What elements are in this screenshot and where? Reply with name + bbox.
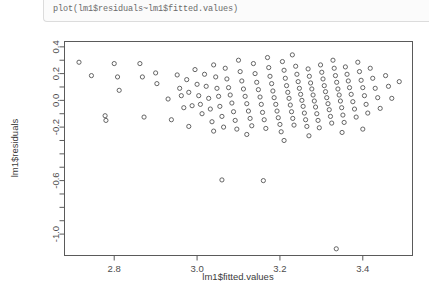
data-point: [117, 88, 121, 92]
data-point: [302, 111, 306, 115]
data-point: [255, 80, 259, 84]
data-point: [357, 69, 361, 73]
data-point: [259, 102, 263, 106]
x-tick-label: 2.8: [108, 263, 121, 274]
data-point: [246, 109, 250, 113]
data-point: [231, 110, 235, 114]
data-point: [274, 102, 278, 106]
data-point: [262, 118, 266, 122]
data-point: [318, 63, 322, 67]
data-point: [328, 114, 332, 118]
data-point: [142, 115, 146, 119]
x-tick-label: 3.4: [356, 263, 369, 274]
data-point: [347, 86, 351, 90]
data-point: [331, 58, 335, 62]
data-point: [115, 75, 119, 79]
data-point: [267, 65, 271, 69]
r-console-strip: plot(lm1$residuals~lm1$fitted.values): [0, 0, 429, 24]
data-point: [271, 89, 275, 93]
data-point: [279, 130, 283, 134]
data-point: [275, 109, 279, 113]
data-point: [204, 84, 208, 88]
data-point: [286, 90, 290, 94]
data-point: [235, 127, 239, 131]
data-point: [260, 110, 264, 114]
data-point: [378, 106, 382, 110]
data-point: [282, 138, 286, 142]
data-point: [373, 86, 377, 90]
data-point: [166, 97, 170, 101]
data-point: [258, 95, 262, 99]
data-point: [214, 75, 218, 79]
data-point: [190, 104, 194, 108]
y-tick-label: -0.6: [50, 172, 61, 188]
data-point: [185, 78, 189, 82]
data-point: [316, 118, 320, 122]
y-axis-tick-labels: 0.40.20.0-0.2-0.6-1.0: [50, 40, 61, 242]
data-point: [154, 71, 158, 75]
data-point: [253, 72, 257, 76]
data-point: [330, 121, 334, 125]
data-point: [233, 118, 237, 122]
data-point: [362, 94, 366, 98]
data-point: [221, 125, 225, 129]
y-tick-label: -1.0: [50, 226, 61, 242]
data-point: [217, 94, 221, 98]
data-point: [306, 67, 310, 71]
data-point: [335, 80, 339, 84]
data-point: [313, 105, 317, 109]
data-point: [155, 82, 159, 86]
data-point: [304, 118, 308, 122]
data-point: [280, 59, 284, 63]
data-point: [343, 65, 347, 69]
data-point: [349, 92, 353, 96]
data-point: [351, 100, 355, 104]
data-point: [243, 94, 247, 98]
data-point: [282, 68, 286, 72]
data-point: [311, 93, 315, 97]
data-point: [178, 86, 182, 90]
data-point: [317, 126, 321, 130]
data-point: [225, 77, 229, 81]
data-point: [208, 107, 212, 111]
data-point: [383, 74, 387, 78]
data-point: [352, 107, 356, 111]
data-point: [261, 179, 265, 183]
data-point: [250, 124, 254, 128]
data-point: [301, 104, 305, 108]
data-point: [368, 66, 372, 70]
data-point: [104, 118, 108, 122]
data-point: [230, 101, 234, 105]
data-point: [200, 112, 204, 116]
y-tick-label: -0.2: [50, 119, 61, 135]
data-point: [338, 99, 342, 103]
data-point: [334, 247, 338, 251]
data-point: [332, 66, 336, 70]
data-point: [287, 96, 291, 100]
data-point: [341, 113, 345, 117]
data-point: [238, 69, 242, 73]
data-point: [89, 74, 93, 78]
data-point: [256, 88, 260, 92]
data-point: [310, 87, 314, 91]
data-point: [299, 92, 303, 96]
data-point: [283, 76, 287, 80]
data-point: [345, 72, 349, 76]
data-point: [288, 103, 292, 107]
data-point: [300, 98, 304, 102]
data-point: [241, 87, 245, 91]
data-point: [236, 58, 240, 62]
data-point: [265, 55, 269, 59]
data-point: [138, 61, 142, 65]
data-point: [223, 66, 227, 70]
console-command-text: plot(lm1$residuals~lm1$fitted.values): [53, 4, 238, 14]
data-point: [376, 96, 380, 100]
data-point: [272, 96, 276, 100]
data-point: [361, 127, 365, 131]
console-command-box[interactable]: plot(lm1$residuals~lm1$fitted.values): [43, 0, 429, 22]
x-axis-ticks: [114, 256, 363, 261]
data-point: [321, 77, 325, 81]
data-point: [182, 106, 186, 110]
data-point: [278, 122, 282, 126]
data-point: [346, 79, 350, 83]
